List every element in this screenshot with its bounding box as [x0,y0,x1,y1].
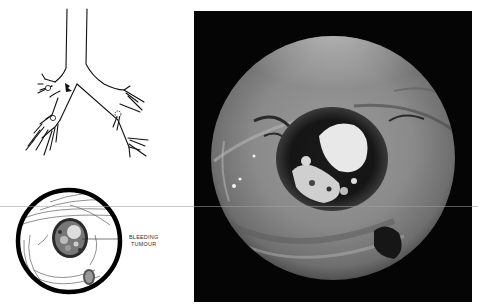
label-line-1: BLEEDING [129,234,158,241]
bleeding-tumour-label: BLEEDING TUMOUR [129,234,158,247]
arrow-marker-icon [65,83,72,92]
label-line-2: TUMOUR [129,241,158,248]
bronchoscopy-photo [194,11,472,302]
bronchoscopic-view-sketch [10,180,130,305]
bronchoscopy-photo-frame [194,11,472,302]
bronchial-tree-diagram [0,0,180,170]
scan-artifact-line [0,206,478,207]
